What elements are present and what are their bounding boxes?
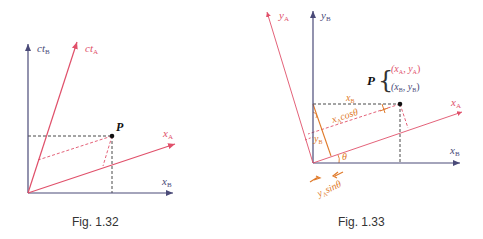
point-p — [398, 102, 403, 107]
figure-1-33: yA yB xA xB P { (xA, yA) (xB, yB) xB xAc… — [267, 9, 462, 229]
dashed-parallel-x-a — [38, 136, 112, 160]
label-x-b: xB — [449, 144, 460, 158]
label-y-b: yB — [320, 9, 331, 23]
ct-a-axis — [28, 42, 77, 193]
label-x-a: xA — [450, 96, 461, 110]
label-seg-xacos: xAcosθ — [329, 106, 359, 126]
coord-b: (xB, yB) — [391, 81, 420, 93]
label-point-p: P — [367, 73, 376, 88]
point-p — [110, 134, 115, 139]
figure-1-32: ctB ctA xA xB P Fig. 1.32 — [28, 42, 175, 229]
caption-fig-1-33: Fig. 1.33 — [338, 215, 385, 229]
yb-perp-to-x-a — [313, 104, 331, 156]
label-x-b: xB — [161, 175, 172, 189]
label-theta: θ — [342, 151, 347, 162]
arrow-right-yasin — [333, 172, 343, 178]
x-a-axis — [28, 144, 175, 193]
label-seg-yb: yB — [313, 133, 322, 145]
diagram-canvas: ctB ctA xA xB P Fig. 1.32 yA yB — [0, 0, 483, 239]
label-seg-xb: xB — [345, 92, 354, 104]
label-ct-a: ctA — [85, 42, 98, 56]
label-point-p: P — [116, 120, 124, 134]
arrow-left-yasin — [310, 176, 320, 182]
theta-arc — [338, 155, 339, 163]
label-seg-yasin: yAsinθ — [314, 178, 343, 200]
caption-fig-1-32: Fig. 1.32 — [72, 215, 119, 229]
dashed-parallel-y-a — [400, 104, 408, 128]
label-x-a: xA — [162, 127, 173, 141]
coord-a: (xA, yA) — [391, 63, 420, 75]
dashed-parallel-ct-a — [103, 136, 112, 166]
xacos-tick — [382, 104, 385, 113]
label-ct-b: ctB — [37, 42, 50, 56]
label-y-a: yA — [278, 9, 289, 23]
y-a-axis — [267, 12, 313, 163]
